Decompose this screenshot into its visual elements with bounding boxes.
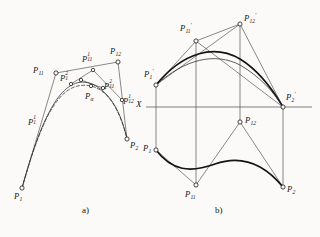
panel-b-node-P12 <box>238 120 242 124</box>
label-a-P11: P11 <box>33 66 43 75</box>
caption-panel-a: a) <box>82 205 89 215</box>
label-b-P1: P1 <box>143 144 151 153</box>
panel-b-node-P2-prime <box>281 105 285 109</box>
panel-b-lower-control-polygon <box>156 122 283 187</box>
panel-b-geometry <box>146 22 312 189</box>
panel-b-node-P1 <box>154 148 158 152</box>
label-b-P1-prime: P1′ <box>144 70 153 79</box>
panel-a-node-P1-sup2 <box>79 78 82 81</box>
panel-b-node-P12-prime <box>238 22 242 26</box>
label-b-P11: P11 <box>185 190 195 199</box>
panel-a-node-P1-sup1 <box>69 82 72 85</box>
figure-canvas <box>0 0 320 237</box>
panel-a-node-P11-sup1 <box>91 68 94 71</box>
label-b-P12: P12 <box>245 116 256 125</box>
panel-b-upper-curve <box>156 52 283 107</box>
label-a-P1-sup2: P21 <box>60 72 68 82</box>
label-a-P1-sup1: P11 <box>28 116 36 126</box>
label-a-P12: P12 <box>110 47 121 56</box>
panel-a-node-P11 <box>54 71 58 75</box>
caption-panel-b: b) <box>215 205 223 215</box>
label-b-P12-prime: P12′ <box>244 14 256 23</box>
x-axis-label: X <box>136 99 142 109</box>
panel-b-node-P1-prime <box>154 83 158 87</box>
label-b-P2-prime: P2′ <box>286 93 295 102</box>
panel-a-node-P12 <box>116 60 120 64</box>
label-a-P1: P1 <box>14 192 22 201</box>
label-b-P2: P2 <box>287 185 295 194</box>
label-a-Palpha: Pα <box>85 92 93 101</box>
panel-a-node-P1 <box>20 186 24 190</box>
figure-root: P1 P11 P11 P21 P111 P12 P211 Pα P112 P2 … <box>0 0 320 237</box>
label-a-P11-sup2: P211 <box>104 80 114 90</box>
panel-b-node-P2 <box>281 185 285 189</box>
label-b-P11-prime: P11′ <box>180 24 192 33</box>
panel-b-node-P11 <box>194 183 198 187</box>
panel-b-lower-curve <box>156 150 283 187</box>
label-a-P12-sup1: P112 <box>123 95 134 105</box>
panel-a-node-P2 <box>125 137 129 141</box>
panel-a-node-Palpha <box>89 84 92 87</box>
label-a-P2: P2 <box>130 141 138 150</box>
label-a-P11-sup1: P111 <box>82 53 92 63</box>
panel-b-node-P11-prime <box>194 39 198 43</box>
panel-b-upper-diagonal-2 <box>196 41 283 107</box>
